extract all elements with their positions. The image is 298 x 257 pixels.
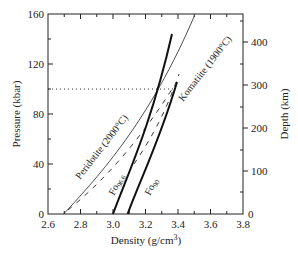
- y2-tick-label: 100: [251, 165, 268, 177]
- y-ticks: [48, 39, 53, 189]
- y-tick-label: 40: [33, 158, 45, 170]
- y2-tick-label: 400: [251, 36, 268, 48]
- y-tick-label: 160: [28, 8, 45, 20]
- y2-tick-label: 200: [251, 122, 268, 134]
- y2-axis-title: Depth (km): [278, 88, 291, 139]
- x-tick-label: 3.0: [106, 218, 120, 230]
- y2-tick-labels: 0 100 200 300 400: [248, 36, 268, 220]
- komatiite-dashed-curve: [134, 74, 179, 164]
- y2-tick-label: 0: [248, 208, 254, 220]
- y2-ticks: [240, 21, 248, 192]
- x-axis-title: Density (g/cm3): [111, 233, 182, 247]
- x-tick-label: 3.2: [139, 218, 153, 230]
- komatiite-label: Komatiite (1900°C): [176, 34, 235, 104]
- y-tick-label: 120: [28, 58, 45, 70]
- y-axis-title: Pressure (kbar): [10, 80, 23, 147]
- fo90-label: Fo90: [142, 176, 162, 198]
- y-tick-label: 0: [39, 208, 45, 220]
- y-tick-labels: 0 40 80 120 160: [28, 8, 45, 220]
- peridotite-curve: [64, 16, 195, 214]
- x-tick-label: 3.6: [204, 218, 218, 230]
- y-tick-label: 80: [33, 108, 45, 120]
- y2-tick-label: 300: [251, 79, 268, 91]
- x-tick-label: 2.8: [74, 218, 88, 230]
- density-pressure-chart: 2.6 2.8 3.0 3.2 3.4 3.6 3.8 0 40 80 120 …: [0, 0, 298, 257]
- x-tick-label: 3.4: [171, 218, 185, 230]
- x-tick-labels: 2.6 2.8 3.0 3.2 3.4 3.6 3.8: [41, 218, 250, 230]
- peridotite-label: Peridotite (2000°C): [73, 112, 131, 181]
